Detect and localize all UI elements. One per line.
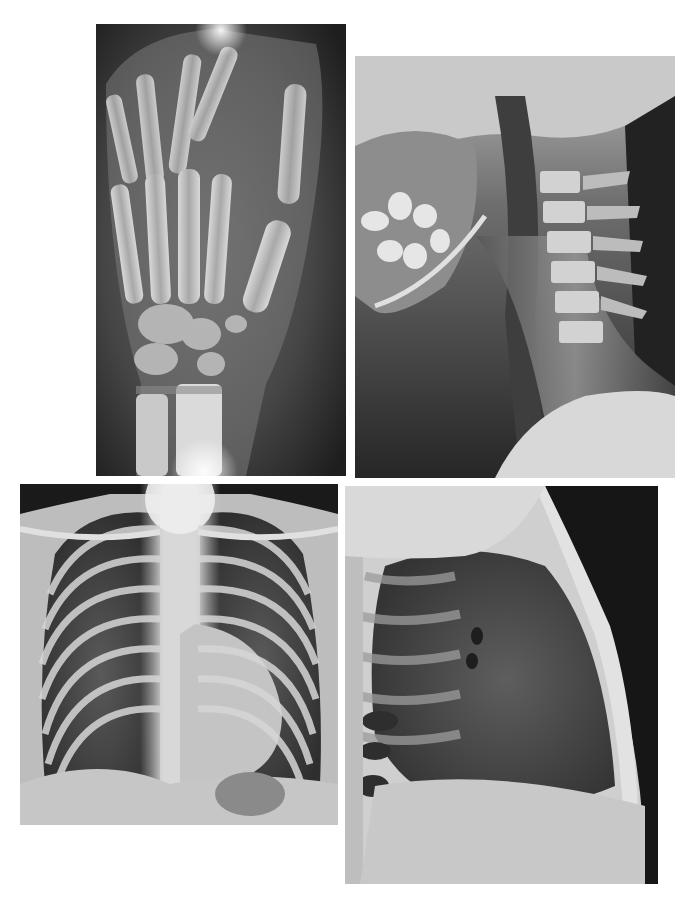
- cervical-spine-xray-image: [355, 56, 675, 478]
- chest-pa-xray-image: [20, 484, 338, 825]
- chest-lateral-xray-image: [345, 486, 658, 884]
- cervical-spine-xray-figure: Lateral cervical spine radiograph: [355, 56, 675, 478]
- chest-lateral-xray-figure: Chest radiograph (lateral view): [345, 486, 658, 884]
- hand-xray-figure: Hand and wrist radiograph (PA view): [96, 24, 346, 476]
- hand-xray-image: [96, 24, 346, 476]
- chest-pa-xray-figure: Chest radiograph (PA view): [20, 484, 338, 825]
